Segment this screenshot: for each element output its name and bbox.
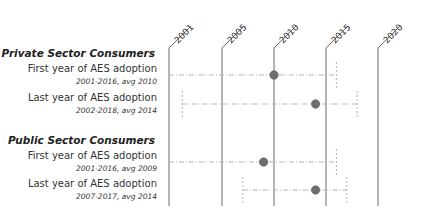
row-label: First year of AES adoption bbox=[28, 150, 157, 161]
avg-dot bbox=[311, 100, 319, 108]
tick-label-2005: 2005 bbox=[225, 22, 248, 45]
row-labels: Private Sector ConsumersFirst year of AE… bbox=[2, 47, 158, 201]
avg-dot bbox=[311, 186, 319, 194]
row-label: Last year of AES adoption bbox=[28, 92, 157, 103]
avg-dot bbox=[259, 158, 267, 166]
avg-dot bbox=[270, 71, 278, 79]
x-axis: 20012005201020152020 bbox=[169, 22, 405, 206]
group-title: Private Sector Consumers bbox=[2, 47, 155, 59]
row-sublabel: 2002-2018, avg 2014 bbox=[76, 106, 157, 115]
row-sublabel: 2007-2017, avg 2014 bbox=[76, 192, 157, 201]
group-title: Public Sector Consumers bbox=[8, 134, 155, 146]
tick-label-2001: 2001 bbox=[172, 22, 195, 45]
row-sublabel: 2001-2016, avg 2010 bbox=[76, 77, 157, 86]
row-sublabel: 2001-2016, avg 2009 bbox=[76, 164, 157, 173]
row-label: Last year of AES adoption bbox=[28, 178, 157, 189]
tick-label-2020: 2020 bbox=[381, 22, 404, 45]
tick-label-2010: 2010 bbox=[277, 22, 300, 45]
adoption-range-chart: 20012005201020152020 Private Sector Cons… bbox=[0, 0, 432, 220]
row-label: First year of AES adoption bbox=[28, 63, 157, 74]
range-marks bbox=[169, 62, 357, 203]
tick-label-2015: 2015 bbox=[329, 22, 352, 45]
